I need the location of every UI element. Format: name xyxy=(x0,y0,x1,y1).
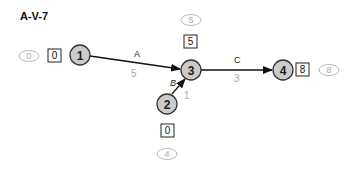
node-1: 0 0 1 xyxy=(19,45,90,65)
node-1-earliest: 0 xyxy=(52,50,58,61)
node-1-latest: 0 xyxy=(26,51,31,61)
edge-a-duration: 5 xyxy=(131,68,137,79)
node-2: 2 0 4 xyxy=(157,94,177,160)
edge-c-duration: 3 xyxy=(234,73,240,84)
node-4: 4 8 8 xyxy=(273,60,339,80)
node-3-earliest: 5 xyxy=(188,36,194,47)
node-4-latest: 8 xyxy=(326,65,331,75)
node-4-earliest: 8 xyxy=(300,64,306,75)
node-3-label: 3 xyxy=(188,64,195,78)
edge-a: A 5 xyxy=(90,49,180,79)
edge-a-label: A xyxy=(134,49,140,59)
node-2-latest: 4 xyxy=(164,149,169,159)
node-2-label: 2 xyxy=(164,98,171,112)
node-2-earliest: 0 xyxy=(165,125,171,136)
edge-b-label: B xyxy=(170,78,176,88)
edge-c-label: C xyxy=(234,55,241,65)
edge-b-duration: 1 xyxy=(184,90,190,101)
edge-c: C 3 xyxy=(201,55,272,84)
node-1-label: 1 xyxy=(77,49,84,63)
node-3: 5 5 3 xyxy=(181,15,201,81)
node-3-latest: 5 xyxy=(188,15,193,25)
node-4-label: 4 xyxy=(280,64,287,78)
network-diagram: A 5 B 1 C 3 0 0 1 5 5 3 2 0 4 xyxy=(0,0,361,171)
